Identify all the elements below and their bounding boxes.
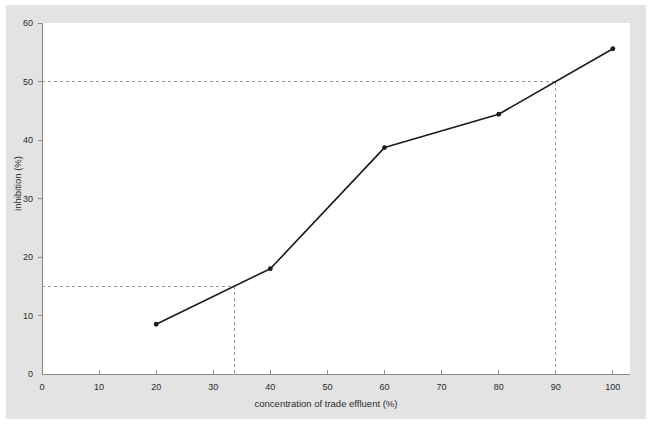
x-tick-label-0: 0 <box>39 383 44 392</box>
x-tick-label-90: 90 <box>551 383 561 392</box>
x-tick-label-20: 20 <box>151 383 161 392</box>
data-point-0-1 <box>268 266 273 271</box>
y-tick-label-60: 60 <box>0 19 33 28</box>
x-tick-label-30: 30 <box>208 383 218 392</box>
x-tick-label-70: 70 <box>437 383 447 392</box>
x-axis-title: concentration of trade effluent (%) <box>0 398 652 409</box>
series-line-0 <box>156 49 613 325</box>
y-tick-label-0: 0 <box>0 370 33 379</box>
y-tick-label-20: 20 <box>0 253 33 262</box>
reference-line-group <box>42 82 556 375</box>
x-tick-label-10: 10 <box>94 383 104 392</box>
data-point-0-0 <box>154 322 159 327</box>
data-point-0-3 <box>496 112 501 117</box>
x-tick-label-60: 60 <box>380 383 390 392</box>
y-tick-label-10: 10 <box>0 311 33 320</box>
x-tick-label-40: 40 <box>265 383 275 392</box>
y-tick-label-50: 50 <box>0 77 33 86</box>
tick-mark-group <box>38 23 613 374</box>
y-axis-title: inhibition (%) <box>12 139 23 229</box>
data-series-group <box>154 46 615 326</box>
chart-svg <box>0 0 652 425</box>
x-tick-label-100: 100 <box>605 383 620 392</box>
x-tick-label-50: 50 <box>322 383 332 392</box>
data-point-0-4 <box>610 46 615 51</box>
chart-figure: 01020304050600102030405060708090100 conc… <box>0 0 652 425</box>
data-point-0-2 <box>382 145 387 150</box>
x-tick-label-80: 80 <box>494 383 504 392</box>
